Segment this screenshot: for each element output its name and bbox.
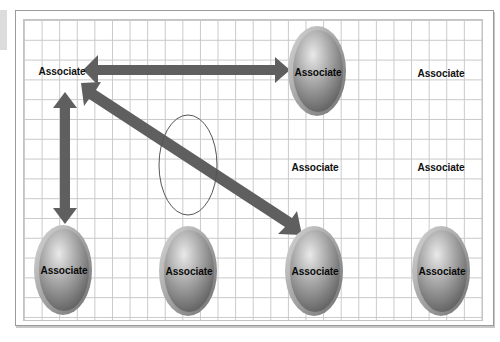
node-label-n3: Associate (417, 67, 464, 79)
node-label-n2: Associate (294, 66, 341, 78)
node-label-n1: Associate (38, 65, 85, 77)
arrow-vertical-n1-n6 (53, 92, 77, 224)
node-label-n7: Associate (165, 265, 212, 277)
arrow-diagonal-n1-n8 (81, 82, 302, 235)
node-label-n4: Associate (291, 161, 338, 173)
node-label-n6: Associate (40, 264, 87, 276)
node-label-n8: Associate (291, 265, 338, 277)
arrow-horizontal-n1-n2 (83, 55, 290, 85)
node-label-n9: Associate (418, 265, 465, 277)
node-label-n5: Associate (417, 161, 464, 173)
